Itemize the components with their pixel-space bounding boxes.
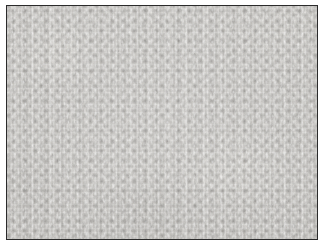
texture-pore-grid-irregular-layer [6, 5, 318, 240]
fabric-texture-photo [6, 5, 318, 240]
texture-pore-grid-staggered-layer [6, 5, 318, 240]
texture-fiber-highlight-secondary-layer [6, 5, 318, 240]
texture-fiber-highlight-layer [6, 5, 318, 240]
texture-pore-grid-primary-layer [6, 5, 318, 240]
texture-photographic-grain-layer [7, 6, 317, 239]
texture-vertical-wales-layer [6, 5, 318, 240]
texture-base-tone-layer [6, 5, 318, 240]
texture-horizontal-courses-layer [6, 5, 318, 240]
texture-vignette-layer [6, 5, 318, 240]
photo-canvas [0, 0, 328, 248]
texture-diagonal-fiber-layer [6, 5, 318, 240]
